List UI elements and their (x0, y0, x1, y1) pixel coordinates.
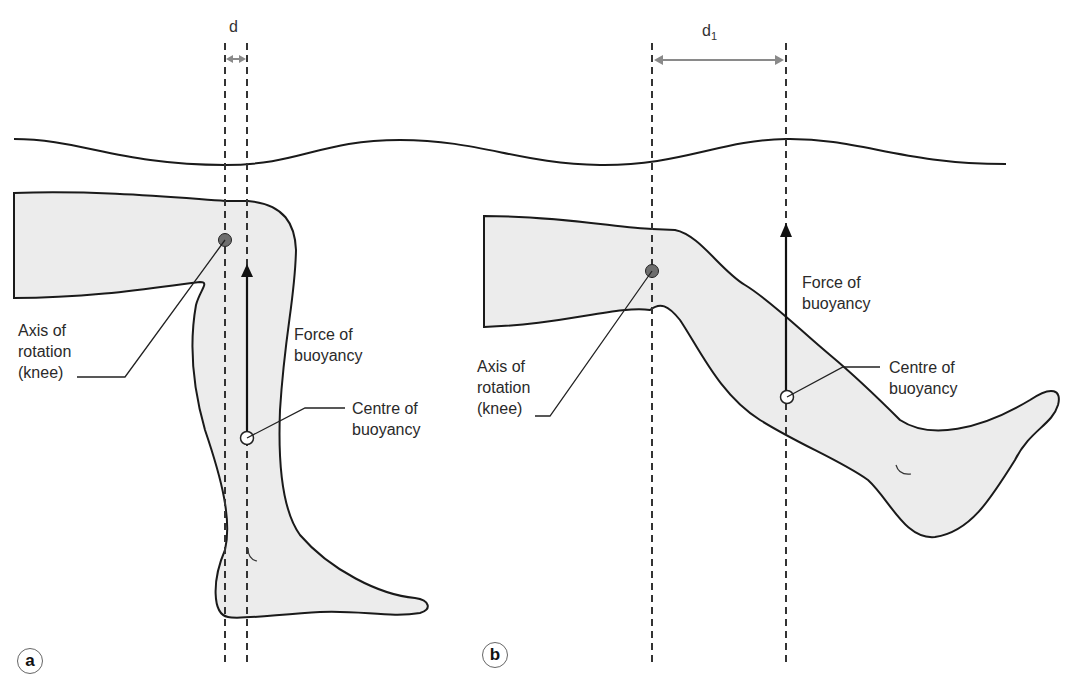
panel-badge-b: b (482, 642, 508, 668)
water-surface-line (14, 139, 1006, 165)
distance-label-b-subscript: 1 (711, 30, 717, 42)
arrowhead-b (780, 223, 792, 237)
distance-label-a: d (229, 18, 238, 36)
panel-badge-a: a (17, 648, 43, 674)
centre-of-buoyancy-label-a: Centre of buoyancy (352, 398, 421, 440)
buoyancy-diagram: d Axis of rotation (knee) Force of buoya… (0, 0, 1080, 685)
distance-label-b: d1 (702, 22, 717, 42)
distance-label-b-main: d (702, 22, 711, 39)
axis-of-rotation-label-b: Axis of rotation (knee) (477, 356, 530, 419)
centre-of-buoyancy-label-b: Centre of buoyancy (889, 357, 958, 399)
leg-b-shape (484, 216, 1059, 537)
force-of-buoyancy-label-b: Force of buoyancy (802, 272, 871, 314)
force-of-buoyancy-label-a: Force of buoyancy (294, 324, 363, 366)
axis-of-rotation-label-a: Axis of rotation (knee) (18, 320, 71, 383)
diagram-graphics (0, 0, 1080, 685)
